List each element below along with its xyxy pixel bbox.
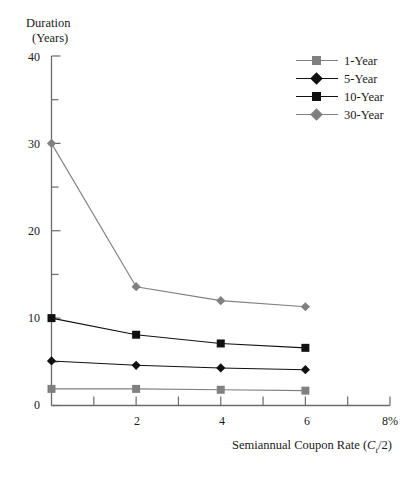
- series-line: [52, 361, 306, 370]
- legend-swatch: [296, 106, 338, 124]
- data-point: [301, 302, 310, 311]
- series-line: [52, 389, 306, 391]
- data-point: [216, 296, 225, 305]
- data-point: [132, 385, 140, 393]
- legend-swatch: [296, 88, 338, 106]
- data-series-layer: [47, 139, 310, 395]
- legend-label: 30-Year: [338, 108, 384, 123]
- legend-label: 1-Year: [338, 54, 377, 69]
- data-point: [132, 361, 141, 370]
- legend-item-10-year[interactable]: 10-Year: [296, 88, 414, 106]
- legend-item-30-year[interactable]: 30-Year: [296, 106, 414, 124]
- data-point: [47, 356, 56, 365]
- y-axis-ticks: [52, 56, 61, 406]
- x-axis-ticks: [94, 397, 390, 406]
- data-point: [217, 386, 225, 394]
- legend-label: 5-Year: [338, 72, 377, 87]
- data-point: [301, 387, 309, 395]
- legend: 1-Year5-Year10-Year30-Year: [296, 52, 414, 124]
- legend-item-1-year[interactable]: 1-Year: [296, 52, 414, 70]
- legend-square-icon: [312, 92, 321, 101]
- series-10-year: [48, 314, 310, 352]
- series-line: [52, 318, 306, 348]
- data-point: [132, 331, 140, 339]
- legend-square-icon: [312, 56, 321, 65]
- legend-item-5-year[interactable]: 5-Year: [296, 70, 414, 88]
- data-point: [48, 314, 56, 322]
- series-30-year: [47, 139, 310, 312]
- data-point: [47, 139, 56, 148]
- duration-vs-coupon-rate-chart: · · · · · Duration (Years) 40 30 20 10 0…: [0, 0, 418, 477]
- legend-label: 10-Year: [338, 90, 384, 105]
- data-point: [301, 365, 310, 374]
- series-line: [52, 143, 306, 306]
- legend-diamond-icon: [310, 72, 323, 85]
- data-point: [48, 385, 56, 393]
- data-point: [301, 344, 309, 352]
- data-point: [132, 282, 141, 291]
- data-point: [217, 339, 225, 347]
- data-point: [216, 363, 225, 372]
- series-1-year: [48, 385, 310, 395]
- legend-diamond-icon: [310, 108, 323, 121]
- series-5-year: [47, 356, 310, 374]
- legend-swatch: [296, 52, 338, 70]
- legend-swatch: [296, 70, 338, 88]
